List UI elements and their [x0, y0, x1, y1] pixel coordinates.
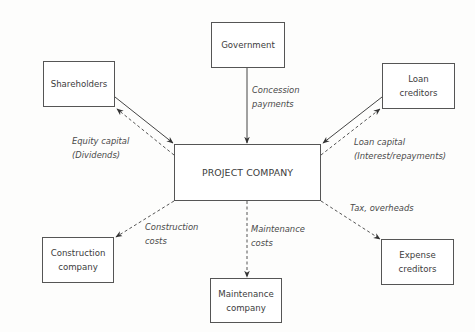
maintenance-company-label-line2: company	[226, 301, 266, 315]
concession-payments-label: Concession payments	[252, 83, 300, 111]
government-node: Government	[211, 22, 285, 68]
tax-overheads-label: Tax, overheads	[350, 201, 414, 215]
expense-creditors-label-line2: creditors	[399, 262, 437, 276]
construction-company-node: Construction company	[42, 237, 114, 283]
construction-costs-label: Construction costs	[145, 220, 198, 248]
expense-creditors-label-line1: Expense	[399, 248, 435, 262]
shareholders-label: Shareholders	[51, 77, 108, 91]
construction-company-label-line2: company	[58, 260, 98, 274]
loan-creditors-label-line2: creditors	[400, 86, 438, 100]
equity-capital-label: Equity capital (Dividends)	[72, 134, 129, 162]
loan-capital-label: Loan capital (Interest/repayments)	[354, 135, 446, 163]
expense-creditors-node: Expense creditors	[381, 239, 454, 285]
loan-creditors-label-line1: Loan	[408, 72, 429, 86]
maintenance-company-node: Maintenance company	[210, 278, 282, 323]
project-company-node: PROJECT COMPANY	[174, 144, 321, 201]
construction-company-label-line1: Construction	[51, 246, 106, 260]
government-label: Government	[221, 38, 275, 52]
project-company-label: PROJECT COMPANY	[202, 166, 293, 180]
maintenance-costs-label: Maintenance costs	[251, 222, 305, 250]
shareholders-node: Shareholders	[43, 61, 115, 107]
maintenance-company-label-line1: Maintenance	[218, 287, 273, 301]
loan-creditors-node: Loan creditors	[382, 63, 455, 109]
